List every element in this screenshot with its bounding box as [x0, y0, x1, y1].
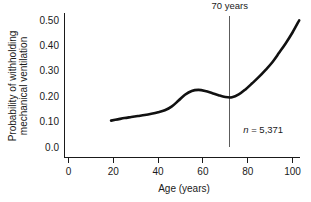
x-tick-label: 100 — [284, 166, 301, 177]
x-tick-label: 80 — [242, 166, 254, 177]
sample-size-label: n = 5,371 — [243, 124, 283, 135]
x-tick-label: 0 — [66, 166, 72, 177]
line-chart: Probability of withholding mechanical ve… — [0, 0, 311, 202]
x-tick-label: 40 — [153, 166, 165, 177]
y-tick-label: 0.50 — [40, 15, 60, 26]
chart-figure: Probability of withholding mechanical ve… — [0, 0, 311, 202]
y-axis-title-line2: mechanical ventilation — [18, 37, 29, 135]
x-tick-label: 60 — [197, 166, 209, 177]
y-tick-label: 0.10 — [40, 116, 60, 127]
y-tick-labels: 0.50 0.40 0.30 0.20 0.10 0.0 — [40, 15, 60, 153]
x-tick-label: 20 — [108, 166, 120, 177]
sample-size-value: = 5,371 — [249, 124, 284, 135]
y-axis-title-line1: Probability of withholding — [7, 31, 18, 142]
x-tick-labels: 0 20 40 60 80 100 — [66, 166, 302, 177]
y-tick-label: 0.30 — [40, 65, 60, 76]
y-tick-label: 0.40 — [40, 40, 60, 51]
seventy-years-label: 70 years — [212, 0, 249, 11]
x-tick-marks — [69, 158, 293, 163]
x-axis-title: Age (years) — [158, 183, 210, 194]
y-tick-label: 0.20 — [40, 91, 60, 102]
y-tick-label: 0.0 — [45, 142, 59, 153]
probability-curve — [111, 20, 299, 120]
y-axis-title: Probability of withholding mechanical ve… — [7, 31, 29, 142]
